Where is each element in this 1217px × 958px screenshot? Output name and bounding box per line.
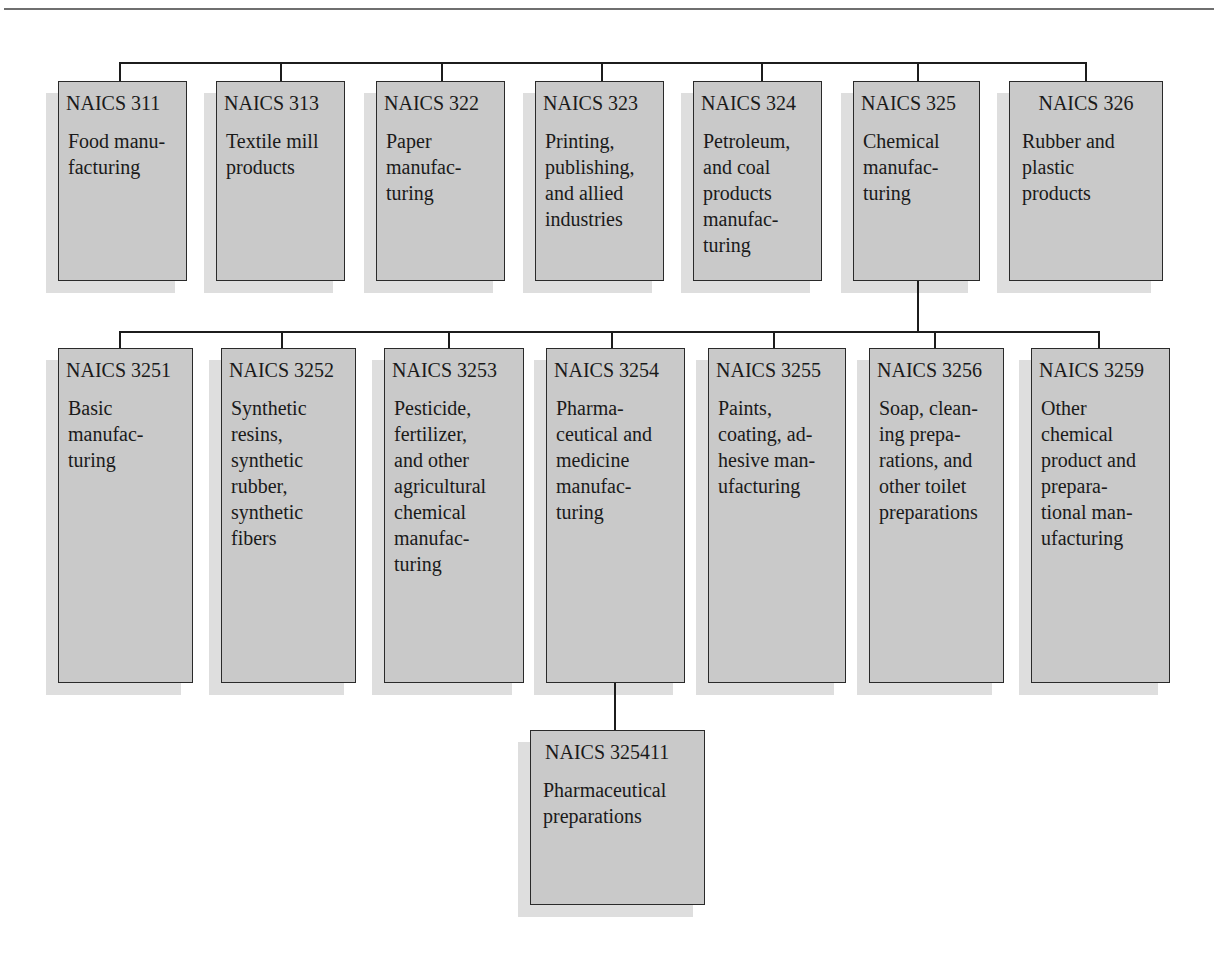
- node-naics-325: NAICS 325 Chemical manufac- turing: [853, 81, 980, 281]
- level1-drop-325: [917, 62, 919, 82]
- node-code: NAICS 324: [701, 90, 821, 116]
- node-description: Petroleum, and coal products manufac- tu…: [701, 128, 821, 258]
- node-code: NAICS 3255: [716, 357, 845, 383]
- node-box: NAICS 322 Paper manufac- turing: [376, 81, 505, 281]
- node-box: NAICS 325411 Pharmaceutical preparations: [530, 730, 705, 905]
- node-description: Paints, coating, ad- hesive man- ufactur…: [716, 395, 845, 499]
- level2-drop-3254: [611, 331, 613, 348]
- node-code: NAICS 322: [384, 90, 504, 116]
- connector-325-to-level2: [917, 281, 919, 333]
- level2-bus-line: [119, 331, 1100, 333]
- level2-drop-3259: [1098, 331, 1100, 348]
- node-naics-324: NAICS 324 Petroleum, and coal products m…: [693, 81, 822, 281]
- node-code: NAICS 3253: [392, 357, 523, 383]
- node-box: NAICS 3259 Other chemical product and pr…: [1031, 348, 1170, 683]
- node-description: Pharma- ceutical and medicine manufac- t…: [554, 395, 684, 525]
- node-code: NAICS 323: [543, 90, 663, 116]
- node-code: NAICS 3254: [554, 357, 684, 383]
- node-box: NAICS 3254 Pharma- ceutical and medicine…: [546, 348, 685, 683]
- level1-drop-313: [280, 62, 282, 82]
- level1-drop-323: [601, 62, 603, 82]
- node-box: NAICS 3252 Synthetic resins, synthetic r…: [221, 348, 356, 683]
- node-description: Pharmaceutical preparations: [541, 777, 704, 829]
- node-box: NAICS 311 Food manu- facturing: [58, 81, 187, 281]
- node-code: NAICS 3252: [229, 357, 355, 383]
- node-naics-3253: NAICS 3253 Pesticide, fertilizer, and ot…: [384, 348, 524, 683]
- node-naics-311: NAICS 311 Food manu- facturing: [58, 81, 187, 281]
- node-naics-322: NAICS 322 Paper manufac- turing: [376, 81, 505, 281]
- node-code: NAICS 3259: [1039, 357, 1169, 383]
- level1-drop-311: [119, 62, 121, 82]
- node-description: Food manu- facturing: [66, 128, 186, 180]
- node-box: NAICS 324 Petroleum, and coal products m…: [693, 81, 822, 281]
- node-description: Soap, clean- ing prepa- rations, and oth…: [877, 395, 1003, 525]
- node-box: NAICS 326 Rubber and plastic products: [1009, 81, 1163, 281]
- node-description: Rubber and plastic products: [1020, 128, 1162, 206]
- node-description: Synthetic resins, synthetic rubber, synt…: [229, 395, 355, 551]
- node-naics-3254: NAICS 3254 Pharma- ceutical and medicine…: [546, 348, 685, 683]
- node-naics-323: NAICS 323 Printing, publishing, and alli…: [535, 81, 664, 281]
- node-box: NAICS 3256 Soap, clean- ing prepa- ratio…: [869, 348, 1004, 683]
- node-naics-3259: NAICS 3259 Other chemical product and pr…: [1031, 348, 1170, 683]
- level2-drop-3255: [773, 331, 775, 348]
- node-naics-3251: NAICS 3251 Basic manufac- turing: [58, 348, 193, 683]
- node-description: Printing, publishing, and allied industr…: [543, 128, 663, 232]
- node-code: NAICS 325: [861, 90, 979, 116]
- node-box: NAICS 3253 Pesticide, fertilizer, and ot…: [384, 348, 524, 683]
- node-naics-3252: NAICS 3252 Synthetic resins, synthetic r…: [221, 348, 356, 683]
- node-code: NAICS 311: [66, 90, 186, 116]
- node-code: NAICS 3256: [877, 357, 1003, 383]
- level2-drop-3252: [281, 331, 283, 348]
- node-code: NAICS 313: [224, 90, 344, 116]
- page-header-rule: [4, 8, 1214, 10]
- node-code: NAICS 3251: [66, 357, 192, 383]
- node-naics-325411: NAICS 325411 Pharmaceutical preparations: [530, 730, 705, 905]
- node-description: Pesticide, fertilizer, and other agricul…: [392, 395, 523, 577]
- level2-drop-3253: [448, 331, 450, 348]
- node-box: NAICS 323 Printing, publishing, and alli…: [535, 81, 664, 281]
- node-box: NAICS 313 Textile mill products: [216, 81, 345, 281]
- node-box: NAICS 3255 Paints, coating, ad- hesive m…: [708, 348, 846, 683]
- node-description: Textile mill products: [224, 128, 344, 180]
- level1-drop-326: [1085, 62, 1087, 82]
- node-description: Other chemical product and prepara- tion…: [1039, 395, 1169, 551]
- node-box: NAICS 325 Chemical manufac- turing: [853, 81, 980, 281]
- node-box: NAICS 3251 Basic manufac- turing: [58, 348, 193, 683]
- node-description: Basic manufac- turing: [66, 395, 192, 473]
- level2-drop-3256: [934, 331, 936, 348]
- node-code: NAICS 325411: [541, 739, 704, 765]
- node-description: Paper manufac- turing: [384, 128, 504, 206]
- level1-drop-324: [761, 62, 763, 82]
- node-description: Chemical manufac- turing: [861, 128, 979, 206]
- node-naics-313: NAICS 313 Textile mill products: [216, 81, 345, 281]
- connector-3254-to-325411: [614, 683, 616, 731]
- level2-drop-3251: [119, 331, 121, 348]
- level1-drop-322: [441, 62, 443, 82]
- node-naics-3255: NAICS 3255 Paints, coating, ad- hesive m…: [708, 348, 846, 683]
- node-code: NAICS 326: [1020, 90, 1162, 116]
- node-naics-326: NAICS 326 Rubber and plastic products: [1009, 81, 1163, 281]
- node-naics-3256: NAICS 3256 Soap, clean- ing prepa- ratio…: [869, 348, 1004, 683]
